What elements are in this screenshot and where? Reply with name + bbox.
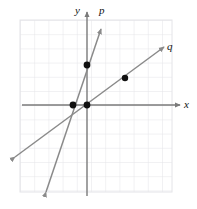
- x-axis-label: x: [184, 99, 189, 110]
- point-on-p-y-intercept: [84, 62, 91, 69]
- graph-canvas: [0, 0, 197, 209]
- y-axis-label: y: [75, 5, 80, 16]
- point-at-origin: [84, 102, 91, 109]
- line-q-label: q: [167, 41, 173, 52]
- point-on-q: [122, 75, 128, 81]
- line-p-label: p: [99, 5, 105, 16]
- coordinate-plane-figure: y p q x: [0, 0, 197, 209]
- point-on-p-x-intercept: [70, 102, 77, 109]
